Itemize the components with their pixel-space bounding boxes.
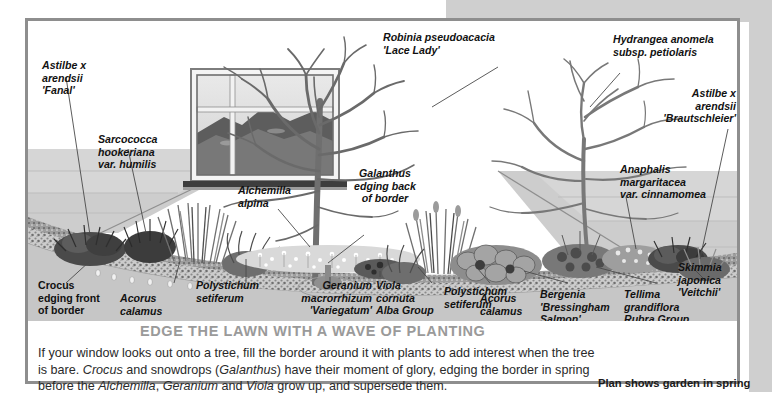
label-polystichum-left: Polystichum setiferum bbox=[196, 279, 280, 304]
body-genus-geranium: Geranium bbox=[163, 379, 218, 393]
label-robinia: Robinia pseudoacacia 'Lace Lady' bbox=[383, 31, 553, 56]
body-genus-alchemilla: Alchemilla bbox=[98, 379, 155, 393]
label-skimmia: Skimmia japonica 'Veitchii' bbox=[678, 261, 737, 299]
label-astilbe-brautschleier: Astilbe x arendsii 'Brautschleier' bbox=[628, 87, 736, 125]
label-viola: Viola cornuta Alba Group bbox=[376, 279, 448, 317]
label-bergenia: Bergenia 'Bressingham Salmon' bbox=[540, 288, 626, 321]
label-crocus-front: Crocus edging front of border bbox=[38, 279, 124, 317]
label-astilbe-fanal: Astilbe x arendsii 'Fanal' bbox=[42, 59, 120, 97]
label-acorus-left: Acorus calamus bbox=[120, 292, 184, 317]
body-line-1: If your window looks out onto a tree, fi… bbox=[38, 346, 548, 360]
label-galanthus-back: Galanthus edging back of border bbox=[340, 167, 430, 205]
body-genus-galanthus: Galanthus bbox=[219, 363, 276, 377]
label-geranium: Geranium macrorrhizum 'Variegatum' bbox=[280, 279, 372, 317]
body-line-2c: and snowdrops ( bbox=[123, 363, 220, 377]
illustration-plate: Astilbe x arendsii 'Fanal' Sarcococca ho… bbox=[25, 18, 740, 384]
garden-illustration: Astilbe x arendsii 'Fanal' Sarcococca ho… bbox=[28, 21, 737, 321]
body-genus-crocus: Crocus bbox=[83, 363, 123, 377]
label-hydrangea: Hydrangea anomela subsp. petiolaris bbox=[613, 33, 737, 58]
background-band-right bbox=[749, 0, 772, 392]
caption-block: EDGE THE LAWN WITH A WAVE OF PLANTING If… bbox=[28, 319, 737, 384]
label-anaphalis: Anaphalis margaritacea var. cinnamomea bbox=[620, 163, 728, 201]
body-line-3g: grow up, and supersede them. bbox=[274, 379, 448, 393]
body-line-2e: ) have their moment of glory, edging the… bbox=[277, 363, 539, 377]
label-acorus-right: Acorus calamus bbox=[480, 292, 544, 317]
label-alchemilla-alpina: Alchemilla alpina bbox=[238, 184, 324, 209]
headline: EDGE THE LAWN WITH A WAVE OF PLANTING bbox=[140, 323, 485, 339]
label-sarcococca: Sarcococca hookeriana var. humilis bbox=[98, 133, 190, 171]
body-text: If your window looks out onto a tree, fi… bbox=[38, 345, 598, 395]
body-genus-viola: Viola bbox=[246, 379, 274, 393]
body-line-3c: , bbox=[156, 379, 163, 393]
body-line-3e: and bbox=[218, 379, 246, 393]
clump-bergenia bbox=[450, 245, 542, 285]
plan-note: Plan shows garden in spring bbox=[598, 377, 750, 389]
